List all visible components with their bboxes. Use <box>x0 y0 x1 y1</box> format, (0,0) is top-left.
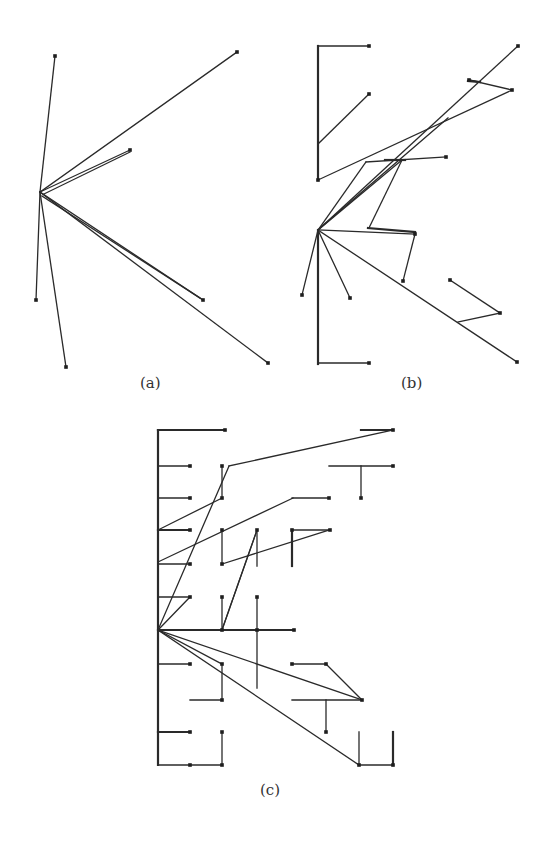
node-marker <box>188 662 192 666</box>
node-marker <box>188 595 192 599</box>
edge-line <box>158 630 222 664</box>
node-marker <box>467 78 471 82</box>
edge-line <box>40 150 130 192</box>
caption-c: (c) <box>260 781 280 799</box>
node-marker <box>324 730 328 734</box>
diagram-b <box>300 44 520 365</box>
node-marker <box>223 428 227 432</box>
node-marker <box>220 730 224 734</box>
node-marker <box>53 54 57 58</box>
node-marker <box>255 528 259 532</box>
edge-line <box>320 118 448 228</box>
node-marker <box>391 464 395 468</box>
edge-line <box>368 228 415 232</box>
edge-line <box>318 90 512 180</box>
edge-line <box>326 664 362 700</box>
edge-line <box>158 630 359 765</box>
diagram-c <box>158 428 395 767</box>
node-marker <box>220 496 224 500</box>
edge-line <box>158 597 190 630</box>
node-marker <box>188 562 192 566</box>
node-marker <box>188 763 192 767</box>
node-marker <box>220 628 224 632</box>
node-marker <box>401 279 405 283</box>
edge-line <box>403 234 415 281</box>
edge-line <box>222 530 329 564</box>
node-marker <box>292 628 296 632</box>
node-marker <box>34 298 38 302</box>
node-marker <box>510 88 514 92</box>
node-marker <box>328 528 332 532</box>
node-marker <box>327 496 331 500</box>
node-marker <box>128 148 132 152</box>
node-marker <box>324 662 328 666</box>
caption-b: (b) <box>401 374 422 392</box>
edge-line <box>318 230 517 362</box>
node-marker <box>444 155 448 159</box>
edge-line <box>42 196 200 298</box>
node-marker <box>516 44 520 48</box>
edge-line <box>40 192 268 363</box>
node-marker <box>220 595 224 599</box>
node-marker <box>391 763 395 767</box>
node-marker <box>367 92 371 96</box>
edge-line <box>229 430 393 466</box>
node-marker <box>188 496 192 500</box>
edge-line <box>40 56 55 192</box>
node-marker <box>220 698 224 702</box>
node-marker <box>367 44 371 48</box>
node-marker <box>359 496 363 500</box>
node-marker <box>367 361 371 365</box>
node-marker <box>515 360 519 364</box>
node-marker <box>255 628 259 632</box>
node-marker <box>188 464 192 468</box>
node-marker <box>357 763 361 767</box>
node-marker <box>201 298 205 302</box>
node-marker <box>391 428 395 432</box>
node-marker <box>300 293 304 297</box>
caption-a: (a) <box>140 374 161 392</box>
node-marker <box>220 763 224 767</box>
node-marker <box>188 528 192 532</box>
node-marker <box>316 178 320 182</box>
node-marker <box>266 361 270 365</box>
node-marker <box>220 562 224 566</box>
node-marker <box>220 528 224 532</box>
edge-line <box>369 160 402 228</box>
node-marker <box>498 311 502 315</box>
node-marker <box>290 528 294 532</box>
node-marker <box>235 50 239 54</box>
edge-line <box>36 192 40 300</box>
edge-line <box>222 530 257 630</box>
edge-line <box>158 466 229 630</box>
diagram-a <box>34 50 270 369</box>
node-marker <box>290 662 294 666</box>
edge-line <box>40 192 66 367</box>
node-marker <box>255 595 259 599</box>
figure-canvas <box>0 0 547 842</box>
node-marker <box>360 698 364 702</box>
node-marker <box>64 365 68 369</box>
edge-line <box>40 52 237 192</box>
node-marker <box>448 278 452 282</box>
node-marker <box>348 296 352 300</box>
node-marker <box>220 464 224 468</box>
edge-line <box>318 94 369 144</box>
edge-line <box>458 313 500 322</box>
node-marker <box>413 232 417 236</box>
edge-line <box>302 230 318 295</box>
node-marker <box>188 730 192 734</box>
edge-line <box>318 46 518 230</box>
node-marker <box>220 662 224 666</box>
edge-line <box>450 280 500 313</box>
